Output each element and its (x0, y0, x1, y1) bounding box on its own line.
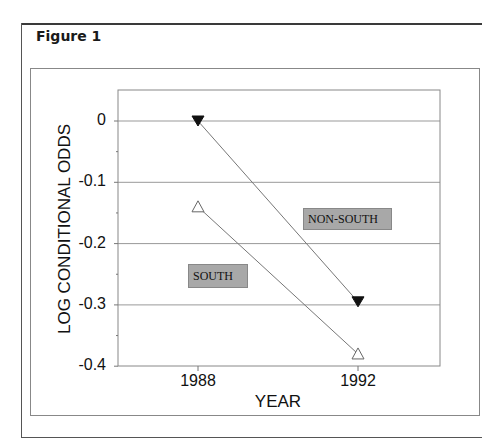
label-south: SOUTH (188, 264, 248, 288)
axes (114, 90, 440, 371)
series-lines (192, 116, 364, 359)
chart-plot (0, 0, 500, 444)
x-tick-label: 1992 (328, 373, 388, 389)
y-axis-label: LOG CONDITIONAL ODDS (55, 124, 75, 334)
label-non-south: NON-SOUTH (303, 208, 392, 230)
x-axis-label: YEAR (238, 392, 318, 412)
x-tick-label: 1988 (168, 373, 228, 389)
y-tick-label: -0.4 (66, 357, 106, 373)
marker-open-triangle-icon (192, 201, 204, 212)
